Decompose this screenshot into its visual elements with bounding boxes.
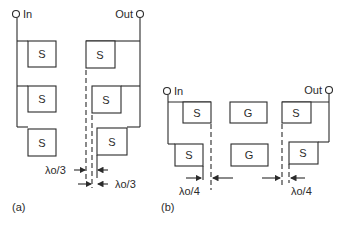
output-label: Out (304, 84, 322, 96)
input-port-icon (164, 88, 171, 95)
dimension-label: λo/4 (179, 185, 200, 197)
box-label: G (245, 149, 254, 161)
box-label: S (292, 107, 299, 119)
output-port-icon (326, 87, 333, 94)
output-label: Out (115, 8, 133, 20)
box-label: S (185, 149, 192, 161)
box-label: S (102, 94, 109, 106)
panel-b: In S S G G Out S S λo/4 λo/4 (b) (161, 84, 333, 213)
diagram: In S S S Out S S S λo/3 λo/3 (0, 0, 347, 226)
box-label: S (108, 136, 115, 148)
box-label: G (244, 107, 253, 119)
panel-a: In S S S Out S S S λo/3 λo/3 (12, 8, 144, 213)
output-port-icon (137, 11, 144, 18)
dimension-label: λo/4 (291, 185, 312, 197)
dimension-label: λo/3 (45, 164, 66, 176)
input-label: In (23, 8, 32, 20)
panel-caption: (b) (161, 201, 174, 213)
input-label: In (174, 85, 183, 97)
box-label: S (38, 137, 45, 149)
box-label: S (193, 107, 200, 119)
input-port-icon (13, 11, 20, 18)
box-label: S (299, 147, 306, 159)
box-label: S (38, 93, 45, 105)
box-label: S (96, 49, 103, 61)
dimension-label: λo/3 (115, 178, 136, 190)
box-label: S (38, 48, 45, 60)
panel-caption: (a) (12, 201, 25, 213)
